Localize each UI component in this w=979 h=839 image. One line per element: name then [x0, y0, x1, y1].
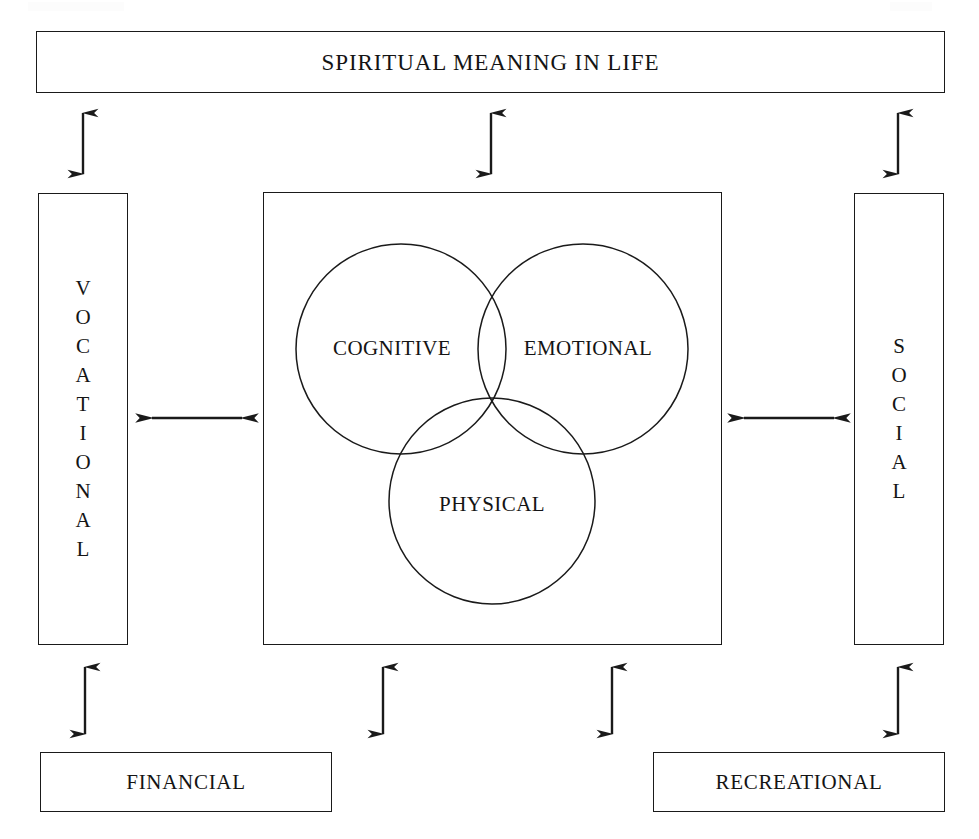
box-vocational: VOCATIONAL: [38, 193, 128, 645]
stacked-letter: L: [891, 477, 906, 506]
box-spiritual-meaning-in-life: SPIRITUAL MEANING IN LIFE: [36, 31, 945, 93]
box-core-dimensions: [263, 192, 722, 645]
box-recreational: RECREATIONAL: [653, 752, 945, 812]
stacked-letter: O: [75, 303, 90, 332]
stacked-letter: O: [75, 448, 90, 477]
venn-label-physical: PHYSICAL: [439, 492, 545, 517]
box-spiritual-label: SPIRITUAL MEANING IN LIFE: [322, 51, 660, 74]
box-social: SOCIAL: [854, 193, 944, 645]
stacked-letter: A: [891, 448, 906, 477]
stacked-letter: I: [75, 419, 90, 448]
stacked-letter: A: [75, 506, 90, 535]
box-financial: FINANCIAL: [40, 752, 332, 812]
venn-label-emotional: EMOTIONAL: [524, 336, 652, 361]
venn-diagram: [264, 193, 723, 646]
stacked-letter: C: [891, 390, 906, 419]
stacked-letter: O: [891, 361, 906, 390]
stacked-letter: T: [75, 390, 90, 419]
box-vocational-label: VOCATIONAL: [75, 274, 90, 564]
stacked-letter: I: [891, 419, 906, 448]
stacked-letter: N: [75, 477, 90, 506]
stacked-letter: V: [75, 274, 90, 303]
stacked-letter: L: [75, 535, 90, 564]
stacked-letter: A: [75, 361, 90, 390]
box-recreational-label: RECREATIONAL: [715, 772, 882, 793]
box-financial-label: FINANCIAL: [126, 772, 245, 793]
stacked-letter: C: [75, 332, 90, 361]
venn-label-cognitive: COGNITIVE: [333, 336, 451, 361]
stacked-letter: S: [891, 332, 906, 361]
box-social-label: SOCIAL: [891, 332, 906, 506]
diagram-page: SPIRITUAL MEANING IN LIFE VOCATIONAL SOC…: [0, 0, 979, 839]
